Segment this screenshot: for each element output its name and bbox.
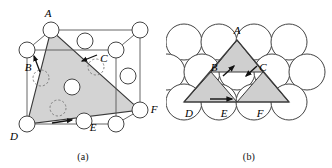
arrow-C-direction: [82, 55, 97, 61]
atom-front-face-center: [64, 79, 80, 95]
figure-root: A B C D E F (a): [0, 0, 332, 168]
atom-vertex-F: [132, 102, 148, 118]
panel-a-fcc-unit-cell: A B C D E F (a): [0, 0, 166, 168]
atom-vertex-A: [43, 22, 59, 38]
label-F: F: [150, 103, 158, 115]
close-packed-plane-svg: A B C D E F: [166, 0, 332, 142]
label-D-b: D: [184, 107, 193, 119]
caption-a: (a): [0, 151, 166, 162]
label-F-b: F: [256, 107, 264, 119]
atom-right-face-center: [120, 68, 136, 84]
panel-b-close-packed-plane: A B C D E F (b): [166, 0, 332, 168]
label-B-b: B: [211, 61, 218, 73]
label-B: B: [25, 61, 32, 73]
arrow-B-direction: [34, 56, 40, 72]
fcc-unit-cell-svg: A B C D E F: [0, 0, 166, 142]
atom-corner-front-top-right: [108, 42, 124, 58]
atom-vertex-D: [19, 116, 35, 132]
atom-corner-front-top-left: [19, 42, 35, 58]
atom-corner-back-top-right: [132, 22, 148, 38]
label-E: E: [89, 121, 97, 133]
label-C-b: C: [259, 61, 267, 73]
label-A-b: A: [233, 24, 241, 36]
atom-corner-front-bottom-right: [108, 116, 124, 132]
label-A: A: [44, 7, 52, 19]
label-C: C: [100, 52, 108, 64]
label-D: D: [9, 130, 18, 142]
atom-top-face-center: [77, 33, 93, 49]
caption-b: (b): [166, 151, 332, 162]
label-E-b: E: [220, 107, 228, 119]
